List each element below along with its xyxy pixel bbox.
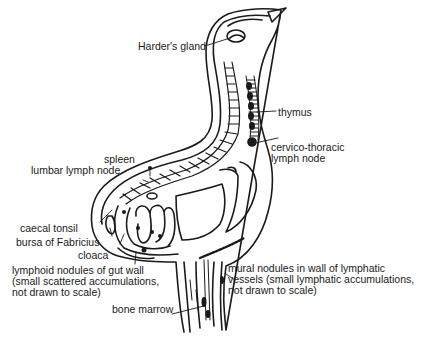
label-bone-marrow: bone marrow bbox=[112, 304, 173, 315]
label-mural-nodules-line3: not drawn to scale) bbox=[228, 285, 317, 296]
label-thymus: thymus bbox=[278, 107, 312, 118]
gut-loops bbox=[136, 205, 175, 246]
label-caecal-tonsil: caecal tonsil bbox=[20, 223, 78, 234]
label-bursa-of-fabricius: bursa of Fabricius bbox=[16, 237, 99, 248]
cervico-thoracic-node-shape bbox=[248, 138, 256, 146]
label-gut-nodules-line3: not drawn to scale) bbox=[12, 287, 101, 298]
thymus-lobes bbox=[246, 82, 255, 130]
label-harders-gland: Harder's gland bbox=[138, 41, 206, 52]
label-cervico-thoracic-line2: lymph node bbox=[271, 153, 325, 164]
spleen-shape bbox=[147, 193, 157, 199]
label-lumbar-lymph-node: lumbar lymph node bbox=[31, 165, 120, 176]
label-cloaca: cloaca bbox=[78, 250, 108, 261]
